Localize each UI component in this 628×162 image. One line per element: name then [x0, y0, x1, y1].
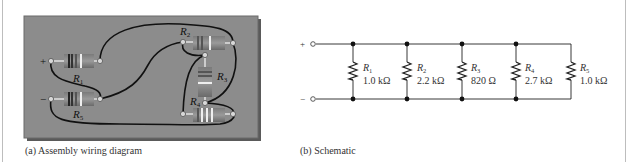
schematic-minus-label: − [300, 94, 305, 104]
minus-terminal-label: − [40, 93, 46, 105]
schematic-plus-label: + [300, 39, 305, 49]
schematic-label-r2: R2 [416, 62, 426, 74]
schematic-label-r1: R1 [362, 62, 372, 74]
caption-schematic: (b) Schematic [300, 145, 356, 156]
schematic-label-r5: R5 [579, 62, 589, 74]
schematic-label-r3: R3 [470, 62, 480, 74]
junction-dots [351, 42, 519, 102]
assembly-wiring-panel: + − R1 R5 R2 R3 R4 [0, 0, 290, 162]
minus-terminal [311, 97, 316, 102]
schematic-value-r1: 1.0 kΩ [363, 75, 390, 86]
schematic-label-r4: R4 [524, 62, 535, 74]
schematic-value-r2: 2.2 kΩ [417, 75, 444, 86]
schematic-value-r4: 2.7 kΩ [525, 75, 552, 86]
caption-assembly-wiring: (a) Assembly wiring diagram [25, 145, 142, 156]
plus-terminal-label: + [40, 55, 46, 67]
resistor-branches [349, 44, 575, 99]
schematic-value-r5: 1.0 kΩ [580, 75, 607, 86]
breadboard-illustration: + − R1 R5 R2 R3 R4 [0, 0, 290, 162]
schematic-diagram: + − R1 1.0 kΩ R2 2.2 kΩ R3 820 Ω R4 2.7 … [290, 0, 628, 162]
plus-terminal [311, 42, 316, 47]
schematic-panel: + − R1 1.0 kΩ R2 2.2 kΩ R3 820 Ω R4 2.7 … [290, 0, 628, 162]
schematic-value-r3: 820 Ω [471, 75, 496, 86]
